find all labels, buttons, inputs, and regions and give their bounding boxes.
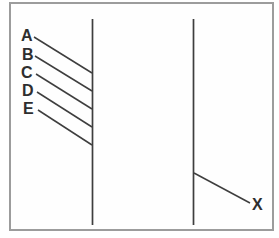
label-C: C <box>21 65 33 81</box>
diagram-lines <box>0 0 279 238</box>
diagram-canvas: A B C D E X <box>0 0 279 238</box>
connector-line-B <box>35 56 92 91</box>
label-A: A <box>21 28 33 44</box>
connector-line-A <box>34 37 92 73</box>
connector-line-C <box>36 74 92 109</box>
connector-line-D <box>37 92 92 127</box>
label-X: X <box>252 197 263 213</box>
label-D: D <box>22 83 34 99</box>
label-E: E <box>23 101 34 117</box>
label-B: B <box>22 47 34 63</box>
connector-line-E <box>38 110 92 145</box>
connector-line-X <box>194 173 250 203</box>
